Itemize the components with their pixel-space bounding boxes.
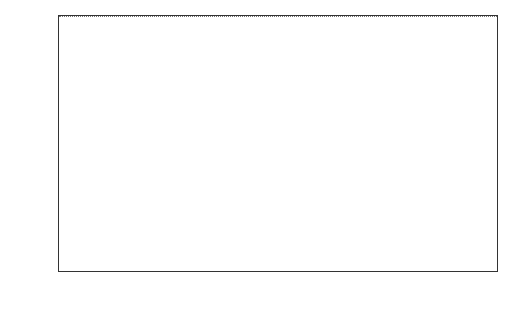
average-reference-line xyxy=(59,16,497,17)
plot-area xyxy=(58,15,498,272)
